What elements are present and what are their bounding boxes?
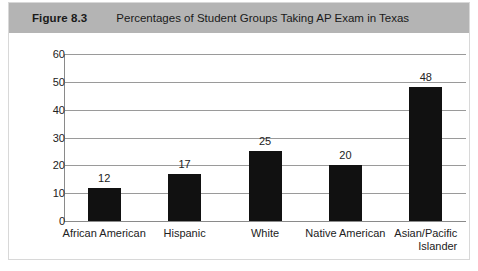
bar — [409, 87, 442, 221]
gridline — [64, 82, 466, 83]
gridline — [64, 54, 466, 55]
y-axis-tick-label: 50 — [25, 76, 65, 88]
x-axis-tick-label: Asian/Pacific Islander — [394, 227, 457, 253]
bar-value-label: 12 — [98, 172, 110, 184]
bar — [249, 151, 282, 221]
y-axis-tick-label: 20 — [25, 159, 65, 171]
x-axis-tick-label: Hispanic — [164, 227, 206, 240]
bar-value-label: 17 — [178, 158, 190, 170]
y-axis-tick-label: 60 — [25, 48, 65, 60]
gridline — [64, 221, 466, 222]
x-axis-tick-label: White — [251, 227, 279, 240]
x-axis-tick-label: Native American — [305, 227, 385, 240]
bar — [168, 174, 201, 221]
bar-value-label: 48 — [420, 71, 432, 83]
bar-value-label: 25 — [259, 135, 271, 147]
bar-value-label: 20 — [339, 149, 351, 161]
y-axis-tick-label: 30 — [25, 132, 65, 144]
chart-plot-area: 0102030405060 1217252048 African America… — [9, 33, 469, 259]
bar — [329, 165, 362, 221]
figure-header-band: Figure 8.3 Percentages of Student Groups… — [9, 3, 469, 33]
figure-number-label: Figure 8.3 — [32, 12, 87, 24]
figure-caption: Percentages of Student Groups Taking AP … — [116, 12, 409, 24]
gridline — [64, 110, 466, 111]
y-axis-tick-label: 40 — [25, 104, 65, 116]
figure-container: Figure 8.3 Percentages of Student Groups… — [8, 2, 470, 260]
y-axis-tick-label: 10 — [25, 187, 65, 199]
x-axis-tick-label: African American — [63, 227, 146, 240]
bar — [88, 188, 121, 221]
y-axis-tick-label: 0 — [25, 215, 65, 227]
